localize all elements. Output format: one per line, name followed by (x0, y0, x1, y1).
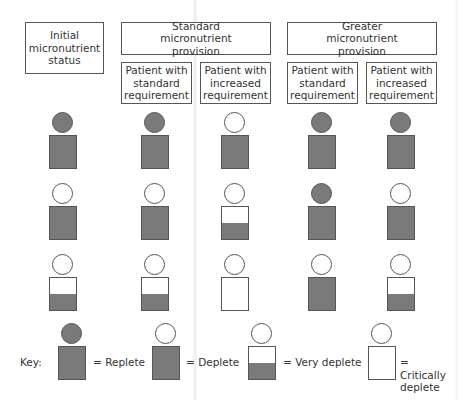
patient-figure-critically-deplete (221, 254, 249, 312)
figure-body-icon (387, 277, 415, 311)
figure-head-icon (224, 254, 245, 275)
figure-head-icon (390, 183, 411, 204)
subheader-label: Patient with increased requirement (201, 64, 270, 102)
figure-body-fill (309, 136, 335, 168)
patient-figure-deplete (387, 183, 415, 241)
key-item-label: = Deplete (186, 356, 239, 369)
figure-body-fill (153, 347, 179, 379)
figure-body-fill (309, 278, 335, 310)
figure-body-fill (222, 223, 248, 239)
patient-figure-very-deplete (248, 323, 276, 381)
patient-figure-very-deplete (49, 254, 77, 312)
patient-figure-deplete (221, 112, 249, 170)
key-item-label: = Replete (93, 356, 145, 369)
header-standard-provision: Standard micronutrient provision (121, 22, 271, 55)
header-initial-label: Initial micronutrient status (29, 29, 100, 67)
patient-figure-very-deplete (387, 254, 415, 312)
figure-head-icon (224, 112, 245, 133)
figure-body-icon (141, 277, 169, 311)
figure-body-icon (221, 135, 249, 169)
figure-body-icon (141, 206, 169, 240)
figure-body-fill (142, 294, 168, 310)
figure-head-icon (371, 323, 392, 344)
figure-head-icon (311, 112, 332, 133)
figure-body-icon (248, 346, 276, 380)
subheader-label: Patient with increased requirement (367, 64, 436, 102)
header-standard-increased: Patient with increased requirement (200, 62, 271, 104)
figure-head-icon (251, 323, 272, 344)
figure-body-icon (368, 346, 396, 380)
key-item-label: = Critically deplete (400, 356, 454, 394)
figure-body-icon (49, 135, 77, 169)
figure-body-icon (221, 277, 249, 311)
figure-body-fill (50, 207, 76, 239)
header-greater-increased: Patient with increased requirement (366, 62, 437, 104)
figure-head-icon (224, 183, 245, 204)
page-edge-shadow (455, 0, 458, 400)
patient-figure-replete (308, 112, 336, 170)
figure-body-icon (49, 277, 77, 311)
figure-body-icon (308, 135, 336, 169)
figure-body-fill (142, 136, 168, 168)
figure-head-icon (311, 254, 332, 275)
patient-figure-deplete (152, 323, 180, 381)
figure-head-icon (52, 112, 73, 133)
figure-body-icon (58, 346, 86, 380)
patient-figure-replete (49, 112, 77, 170)
subheader-label: Patient with standard requirement (122, 64, 191, 102)
figure-body-fill (142, 207, 168, 239)
patient-figure-deplete (141, 183, 169, 241)
figure-body-fill (222, 136, 248, 168)
page-fold-shadow (192, 0, 198, 400)
figure-head-icon (61, 323, 82, 344)
figure-body-icon (221, 206, 249, 240)
patient-figure-deplete (308, 254, 336, 312)
figure-body-fill (388, 136, 414, 168)
key-label: Key: (20, 356, 42, 369)
figure-body-icon (152, 346, 180, 380)
patient-figure-replete (387, 112, 415, 170)
patient-figure-critically-deplete (368, 323, 396, 381)
figure-body-icon (387, 135, 415, 169)
figure-body-icon (141, 135, 169, 169)
figure-body-fill (309, 207, 335, 239)
figure-head-icon (390, 112, 411, 133)
header-greater-provision: Greater micronutrient provision (287, 22, 437, 55)
figure-body-icon (308, 206, 336, 240)
patient-figure-replete (58, 323, 86, 381)
figure-body-fill (388, 207, 414, 239)
header-greater-label: Greater micronutrient provision (308, 20, 416, 58)
subheader-label: Patient with standard requirement (288, 64, 357, 102)
patient-figure-very-deplete (141, 254, 169, 312)
figure-body-icon (387, 206, 415, 240)
patient-figure-replete (141, 112, 169, 170)
patient-figure-replete (308, 183, 336, 241)
figure-body-fill (50, 136, 76, 168)
patient-figure-very-deplete (221, 183, 249, 241)
figure-head-icon (52, 183, 73, 204)
figure-head-icon (144, 183, 165, 204)
figure-head-icon (144, 112, 165, 133)
figure-head-icon (390, 254, 411, 275)
figure-body-icon (49, 206, 77, 240)
figure-body-fill (59, 347, 85, 379)
figure-body-fill (249, 363, 275, 379)
figure-body-fill (50, 294, 76, 310)
patient-figure-deplete (49, 183, 77, 241)
figure-body-fill (388, 294, 414, 310)
header-standard-standard: Patient with standard requirement (121, 62, 192, 104)
key-item-label: = Very deplete (283, 356, 362, 369)
figure-head-icon (155, 323, 176, 344)
header-standard-label: Standard micronutrient provision (142, 20, 250, 58)
header-initial-status: Initial micronutrient status (25, 22, 104, 74)
figure-body-icon (308, 277, 336, 311)
figure-head-icon (311, 183, 332, 204)
figure-head-icon (52, 254, 73, 275)
header-greater-standard: Patient with standard requirement (287, 62, 358, 104)
figure-head-icon (144, 254, 165, 275)
